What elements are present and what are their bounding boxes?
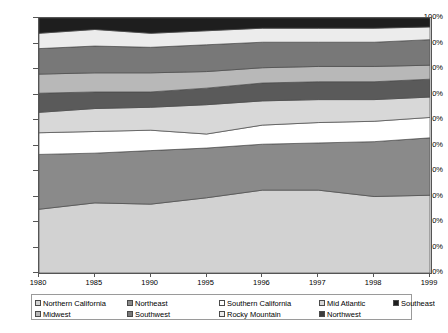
legend-swatch: [393, 300, 399, 306]
legend-item[interactable]: Midwest: [35, 308, 127, 319]
legend-item[interactable]: Rocky Mountain: [219, 308, 319, 319]
x-tick-mark: [429, 273, 430, 277]
legend-label: Northwest: [327, 309, 361, 319]
legend-label: Southern California: [227, 298, 291, 308]
x-tick-mark: [261, 273, 262, 277]
legend-swatch: [127, 311, 133, 317]
x-tick-label: 1995: [186, 278, 226, 287]
x-tick-label: 1997: [297, 278, 337, 287]
x-tick-label: 1980: [18, 278, 58, 287]
chart-legend: Northern CaliforniaNortheastSouthern Cal…: [31, 294, 412, 320]
legend-row: Northern CaliforniaNortheastSouthern Cal…: [35, 297, 411, 308]
legend-label: Southwest: [135, 309, 170, 319]
x-tick-mark: [317, 273, 318, 277]
legend-row: MidwestSouthwestRocky MountainNorthwest: [35, 308, 411, 319]
legend-item[interactable]: Northern California: [35, 297, 127, 308]
plot-area: [38, 17, 432, 274]
area-bands: [39, 18, 431, 273]
legend-label: Mid Atlantic: [327, 298, 365, 308]
legend-label: Northeast: [135, 298, 168, 308]
legend-item[interactable]: Southeast: [393, 297, 435, 308]
legend-item[interactable]: Northeast: [127, 297, 219, 308]
legend-swatch: [35, 311, 41, 317]
legend-label: Southeast: [401, 298, 435, 308]
x-tick-mark: [150, 273, 151, 277]
legend-swatch: [127, 300, 133, 306]
legend-item[interactable]: Southwest: [127, 308, 219, 319]
legend-label: Northern California: [43, 298, 106, 308]
x-tick-label: 1999: [409, 278, 448, 287]
legend-swatch: [35, 300, 41, 306]
x-tick-label: 1996: [241, 278, 281, 287]
x-tick-label: 1990: [130, 278, 170, 287]
legend-swatch: [319, 300, 325, 306]
legend-item[interactable]: Southern California: [219, 297, 319, 308]
x-tick-label: 1998: [353, 278, 393, 287]
legend-item[interactable]: Mid Atlantic: [319, 297, 393, 308]
legend-swatch: [219, 300, 225, 306]
x-tick-label: 1985: [74, 278, 114, 287]
legend-label: Rocky Mountain: [227, 309, 281, 319]
x-tick-mark: [38, 273, 39, 277]
legend-label: Midwest: [43, 309, 71, 319]
legend-item[interactable]: Northwest: [319, 308, 393, 319]
legend-swatch: [319, 311, 325, 317]
x-tick-mark: [373, 273, 374, 277]
legend-swatch: [219, 311, 225, 317]
x-tick-mark: [94, 273, 95, 277]
x-tick-mark: [206, 273, 207, 277]
